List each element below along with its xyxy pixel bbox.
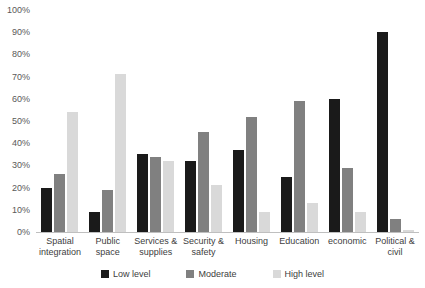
bar-group — [180, 10, 228, 232]
x-axis-category-label: Education — [275, 234, 323, 264]
bar-high[interactable] — [355, 212, 366, 232]
legend-item[interactable]: Low level — [101, 269, 151, 279]
bar-low[interactable] — [281, 177, 292, 233]
chart-legend: Low levelModerateHigh level — [0, 266, 425, 282]
x-axis-category-label: Housing — [228, 234, 276, 264]
x-axis-category-label: Security & safety — [180, 234, 228, 264]
y-axis-tick-label: 80% — [12, 49, 30, 59]
y-axis-tick-label: 70% — [12, 72, 30, 82]
y-axis-tick-label: 0% — [17, 227, 30, 237]
y-axis-tick-label: 100% — [7, 5, 30, 15]
bar-moderate[interactable] — [150, 157, 161, 232]
legend-item[interactable]: High level — [273, 269, 325, 279]
bar-moderate[interactable] — [390, 219, 401, 232]
y-axis-tick-label: 10% — [12, 205, 30, 215]
bar-group — [275, 10, 323, 232]
grouped-bar-chart: 100%90%80%70%60%50%40%30%20%10%0% Spatia… — [0, 0, 425, 288]
y-axis-tick-label: 90% — [12, 27, 30, 37]
legend-label: Moderate — [198, 269, 236, 279]
bar-moderate[interactable] — [54, 174, 65, 232]
bar-low[interactable] — [89, 212, 100, 232]
bar-moderate[interactable] — [342, 168, 353, 232]
bar-low[interactable] — [377, 32, 388, 232]
bar-group — [371, 10, 419, 232]
y-axis: 100%90%80%70%60%50%40%30%20%10%0% — [0, 0, 34, 243]
bar-group — [228, 10, 276, 232]
y-axis-tick-label: 50% — [12, 116, 30, 126]
bar-high[interactable] — [163, 161, 174, 232]
legend-item[interactable]: Moderate — [186, 269, 236, 279]
x-axis-category-label: Public space — [84, 234, 132, 264]
bar-moderate[interactable] — [246, 117, 257, 232]
y-axis-tick-label: 30% — [12, 160, 30, 170]
legend-swatch-icon — [101, 270, 109, 278]
bar-moderate[interactable] — [198, 132, 209, 232]
bar-low[interactable] — [137, 154, 148, 232]
bar-group — [36, 10, 84, 232]
legend-swatch-icon — [186, 270, 194, 278]
legend-swatch-icon — [273, 270, 281, 278]
legend-label: High level — [285, 269, 325, 279]
x-axis-category-label: economic — [323, 234, 371, 264]
bar-group — [323, 10, 371, 232]
bar-groups-container — [36, 10, 419, 232]
x-axis-category-label: Spatial integration — [36, 234, 84, 264]
bar-high[interactable] — [67, 112, 78, 232]
bar-high[interactable] — [307, 203, 318, 232]
x-axis-category-label: Services & supplies — [132, 234, 180, 264]
bar-group — [84, 10, 132, 232]
bar-high[interactable] — [115, 74, 126, 232]
x-axis-baseline — [36, 232, 419, 233]
y-axis-tick-label: 40% — [12, 138, 30, 148]
bar-group — [132, 10, 180, 232]
y-axis-tick-label: 60% — [12, 94, 30, 104]
x-axis-labels: Spatial integrationPublic spaceServices … — [36, 234, 419, 264]
bar-high[interactable] — [259, 212, 270, 232]
bar-low[interactable] — [329, 99, 340, 232]
bar-high[interactable] — [403, 230, 414, 232]
bar-low[interactable] — [41, 188, 52, 232]
bar-low[interactable] — [185, 161, 196, 232]
bar-low[interactable] — [233, 150, 244, 232]
legend-label: Low level — [113, 269, 151, 279]
bar-moderate[interactable] — [294, 101, 305, 232]
bar-high[interactable] — [211, 185, 222, 232]
x-axis-category-label: Political & civil — [371, 234, 419, 264]
y-axis-tick-label: 20% — [12, 183, 30, 193]
bar-moderate[interactable] — [102, 190, 113, 232]
